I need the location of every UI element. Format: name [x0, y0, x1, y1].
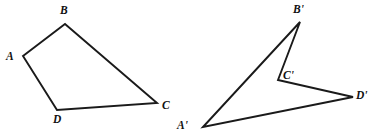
vertex-label-a: A [6, 51, 14, 63]
geometry-figure: A B C D A' B' C' D' [0, 0, 378, 139]
quadrilateral-abcd [23, 24, 157, 110]
vertex-label-d-prime: D' [356, 90, 368, 102]
vertex-label-a-prime: A' [177, 120, 188, 132]
vertex-label-d: D [53, 114, 61, 126]
vertex-label-c-prime: C' [283, 70, 294, 82]
quadrilateral-a-prime-b-prime-c-prime-d-prime [203, 22, 353, 127]
vertex-label-b-prime: B' [293, 4, 304, 16]
vertex-label-c: C [162, 100, 170, 112]
vertex-label-b: B [60, 5, 68, 17]
